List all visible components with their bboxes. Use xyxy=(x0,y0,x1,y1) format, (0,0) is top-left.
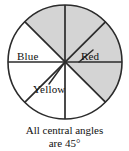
caption-line-2: are 45° xyxy=(0,137,129,150)
sector-label-red: Red xyxy=(81,51,99,62)
figure-caption: All central angles are 45° xyxy=(0,124,129,150)
sector-label-blue: Blue xyxy=(17,51,39,62)
caption-line-1: All central angles xyxy=(0,124,129,137)
sector-label-yellow: Yellow xyxy=(33,84,65,95)
sector-diagram-figure: Blue Red Yellow All central angles are 4… xyxy=(0,0,129,151)
pie-circle-graphic xyxy=(0,0,129,124)
